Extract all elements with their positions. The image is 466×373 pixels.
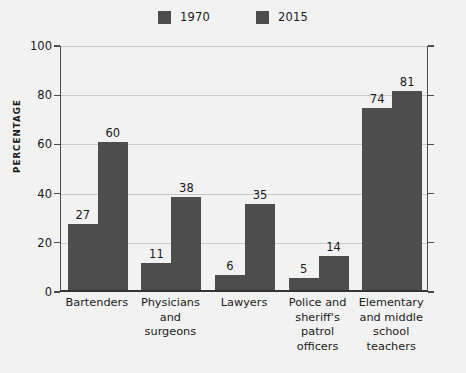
bar <box>215 275 245 290</box>
x-tick-label-line: Police and <box>289 296 347 309</box>
bar-column: 38 <box>171 46 201 290</box>
bar-group: 1138 <box>141 46 201 290</box>
axis-tick <box>428 45 434 46</box>
bar-group: 635 <box>215 46 275 290</box>
bar <box>245 204 275 290</box>
y-axis-tick-labels: 020406080100 <box>0 46 52 292</box>
axis-tick <box>54 242 60 243</box>
bar-value-label: 35 <box>253 188 268 202</box>
x-tick-label-line: and middle <box>359 311 422 324</box>
plot-area: 276011386355147481 <box>60 46 428 292</box>
axis-tick <box>54 193 60 194</box>
legend-label-1970: 1970 <box>180 10 210 24</box>
x-tick-label-line: and surgeons <box>145 311 197 339</box>
y-tick-label: 0 <box>6 285 52 299</box>
bar <box>68 224 98 290</box>
axis-tick <box>54 144 60 145</box>
x-axis-tick-labels: BartendersPhysiciansand surgeonsLawyersP… <box>60 296 428 370</box>
y-axis-title: PERCENTAGE <box>12 86 22 186</box>
chart-legend: 1970 2015 <box>0 10 466 24</box>
x-tick-label: Lawyers <box>207 296 281 311</box>
x-tick-label: Police andsheriff'spatrolofficers <box>281 296 355 354</box>
bar-value-label: 11 <box>149 247 164 261</box>
axis-tick <box>428 291 434 292</box>
axis-tick <box>54 95 60 96</box>
bar-value-label: 14 <box>326 240 341 254</box>
bar-column: 60 <box>98 46 128 290</box>
bar-column: 14 <box>319 46 349 290</box>
bar-chart: 1970 2015 020406080100 PERCENTAGE 276011… <box>0 0 466 373</box>
bar-value-label: 27 <box>75 208 90 222</box>
x-tick-label-line: Physicians <box>141 296 200 309</box>
bar-column: 5 <box>289 46 319 290</box>
axis-tick <box>428 193 434 194</box>
axis-tick <box>54 291 60 292</box>
x-tick-label-line: sheriff's <box>295 311 340 324</box>
x-tick-label: Elementaryand middleschoolteachers <box>354 296 428 354</box>
x-tick-label: Physiciansand surgeons <box>134 296 208 340</box>
y-tick-label: 20 <box>6 236 52 250</box>
x-tick-label-line: officers <box>297 340 339 353</box>
legend-swatch-1970 <box>158 11 171 24</box>
bar <box>141 263 171 290</box>
x-tick-label-line: Elementary <box>359 296 424 309</box>
bar-column: 6 <box>215 46 245 290</box>
bar-column: 35 <box>245 46 275 290</box>
bar-value-label: 5 <box>300 262 307 276</box>
axis-tick <box>428 95 434 96</box>
bar-column: 81 <box>392 46 422 290</box>
bar <box>289 278 319 290</box>
x-tick-label-line: patrol <box>301 325 334 338</box>
legend-swatch-2015 <box>256 11 269 24</box>
bar-group: 514 <box>289 46 349 290</box>
legend-entry-1970: 1970 <box>158 10 210 24</box>
y-tick-label: 100 <box>6 39 52 53</box>
bar-column: 11 <box>141 46 171 290</box>
bar <box>362 108 392 290</box>
x-tick-label-line: Lawyers <box>221 296 268 309</box>
bar-group: 2760 <box>68 46 128 290</box>
bar-value-label: 38 <box>179 181 194 195</box>
bar <box>392 91 422 290</box>
bar-value-label: 74 <box>370 92 385 106</box>
bar-value-label: 60 <box>105 126 120 140</box>
x-tick-label-line: teachers <box>367 340 416 353</box>
bar <box>319 256 349 290</box>
x-tick-label: Bartenders <box>60 296 134 311</box>
bar-column: 74 <box>362 46 392 290</box>
y-tick-label: 40 <box>6 187 52 201</box>
x-tick-label-line: school <box>373 325 409 338</box>
legend-label-2015: 2015 <box>278 10 308 24</box>
legend-entry-2015: 2015 <box>256 10 308 24</box>
axis-tick <box>54 45 60 46</box>
bar <box>171 197 201 290</box>
bar-value-label: 81 <box>400 75 415 89</box>
bar-value-label: 6 <box>226 259 233 273</box>
bar-column: 27 <box>68 46 98 290</box>
x-tick-label-line: Bartenders <box>66 296 129 309</box>
bar-group: 7481 <box>362 46 422 290</box>
axis-tick <box>428 144 434 145</box>
axis-tick <box>428 242 434 243</box>
bar <box>98 142 128 290</box>
